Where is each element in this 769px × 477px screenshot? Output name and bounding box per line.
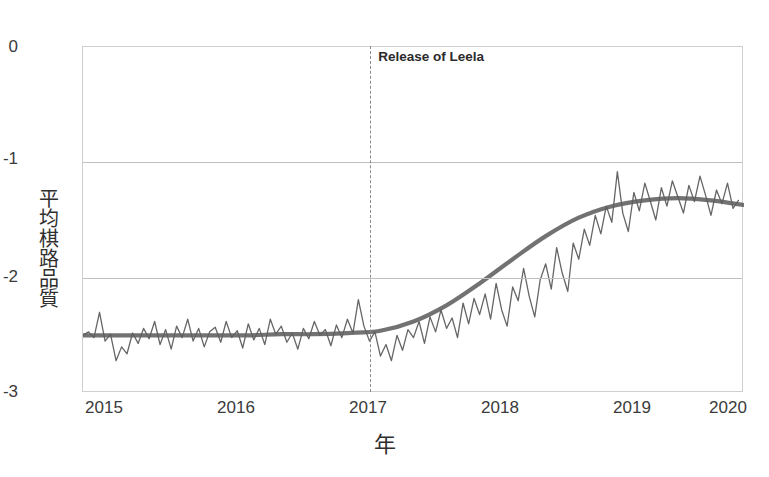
x-axis-tick-2015: 2015 <box>69 398 139 418</box>
chart-series-svg <box>83 47 744 393</box>
x-axis-title: 年 <box>0 426 769 458</box>
event-vertical-line <box>370 46 371 392</box>
event-annotation-label: Release of Leela <box>378 49 484 64</box>
x-axis-tick-2018: 2018 <box>465 398 535 418</box>
y-axis-title: 平均棋路品質 <box>29 140 57 355</box>
y-axis-tick-m1: -1 <box>0 150 18 167</box>
chart-figure: 平均棋路品質 隨時間變化 0 -1 -2 -3 平均棋路品質 Release o… <box>0 0 769 477</box>
x-axis-tick-2016: 2016 <box>201 398 271 418</box>
x-axis-tick-2019: 2019 <box>597 398 667 418</box>
series-smooth-trend <box>83 198 744 335</box>
x-axis-tick-2020: 2020 <box>693 398 763 418</box>
y-axis-tick-0: 0 <box>0 38 18 55</box>
x-axis-tick-2017: 2017 <box>333 398 403 418</box>
gridline-m1 <box>83 162 742 163</box>
plot-area <box>82 46 743 392</box>
y-axis-tick-m2: -2 <box>0 268 18 285</box>
y-axis-tick-m3: -3 <box>0 383 18 400</box>
gridline-m2 <box>83 278 742 279</box>
